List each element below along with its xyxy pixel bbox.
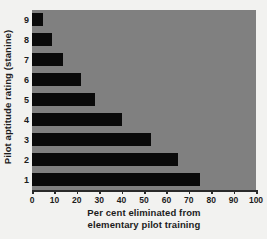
- x-axis-title-line-2: elementary pilot training: [32, 219, 256, 231]
- y-axis-tick-label: 4: [14, 115, 29, 125]
- y-axis-tick-label: 5: [14, 95, 29, 105]
- y-axis-tick-label: 8: [14, 35, 29, 45]
- x-axis-tick-mark: [32, 190, 34, 194]
- x-axis-ticks: 0102030405060708090100: [32, 190, 256, 206]
- bar-row: [32, 110, 256, 130]
- x-axis-tick-label: 100: [244, 195, 267, 205]
- x-axis-tick-mark: [122, 190, 124, 194]
- bar: [32, 73, 81, 86]
- x-axis-tick-label: 0: [20, 195, 44, 205]
- bar: [32, 13, 43, 26]
- x-axis-tick-mark: [166, 190, 168, 194]
- bar-row: [32, 90, 256, 110]
- bar-row: [32, 50, 256, 70]
- x-axis-title: Per cent eliminated from elementary pilo…: [32, 207, 256, 231]
- x-axis-tick-label: 50: [132, 195, 156, 205]
- bar-chart-figure: Pilot aptitude rating (stanine) 98765432…: [0, 0, 267, 239]
- x-axis-tick-label: 90: [222, 195, 246, 205]
- bar-row: [32, 10, 256, 30]
- y-axis-tick-label: 9: [14, 15, 29, 25]
- bar-row: [32, 130, 256, 150]
- bar-row: [32, 150, 256, 170]
- y-axis-tick-label: 6: [14, 75, 29, 85]
- y-axis-tick-labels: 987654321: [14, 10, 29, 190]
- x-axis-tick-label: 80: [199, 195, 223, 205]
- bar: [32, 53, 63, 66]
- bar-row: [32, 170, 256, 190]
- y-axis-title: Pilot aptitude rating (stanine): [1, 2, 15, 192]
- bar-row: [32, 70, 256, 90]
- y-axis-tick-label: 2: [14, 155, 29, 165]
- y-axis-tick-label: 1: [14, 175, 29, 185]
- bar: [32, 133, 151, 146]
- y-axis-tick-label: 3: [14, 135, 29, 145]
- x-axis-tick-mark: [54, 190, 56, 194]
- bar: [32, 173, 200, 186]
- x-axis-tick-mark: [77, 190, 79, 194]
- plot-area: [32, 10, 256, 190]
- x-axis-tick-mark: [99, 190, 101, 194]
- bar: [32, 113, 122, 126]
- x-axis-tick-label: 20: [65, 195, 89, 205]
- bar-row: [32, 30, 256, 50]
- y-axis-tick-label: 7: [14, 55, 29, 65]
- bar: [32, 93, 95, 106]
- x-axis-tick-label: 70: [177, 195, 201, 205]
- bar: [32, 33, 52, 46]
- x-axis-tick-mark: [189, 190, 191, 194]
- x-axis-tick-mark: [211, 190, 213, 194]
- x-axis-title-line-1: Per cent eliminated from: [32, 207, 256, 219]
- x-axis-tick-mark: [144, 190, 146, 194]
- bar: [32, 153, 178, 166]
- x-axis-tick-mark: [234, 190, 236, 194]
- x-axis-tick-label: 10: [42, 195, 66, 205]
- x-axis-tick-label: 40: [110, 195, 134, 205]
- x-axis-tick-label: 60: [154, 195, 178, 205]
- x-axis-tick-label: 30: [87, 195, 111, 205]
- x-axis-tick-mark: [256, 190, 258, 194]
